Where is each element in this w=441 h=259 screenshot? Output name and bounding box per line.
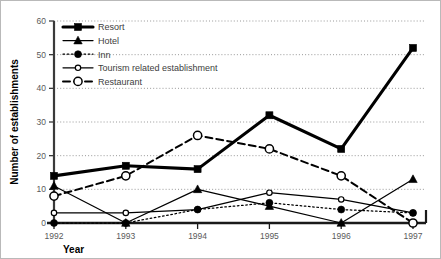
legend-label: Hotel	[98, 36, 119, 46]
legend-label: Resort	[98, 22, 125, 32]
y-tick-label: 50	[37, 50, 47, 60]
data-point-marker	[194, 206, 201, 213]
data-point-marker	[409, 219, 417, 227]
data-point-marker	[337, 172, 345, 180]
data-point-marker	[409, 175, 417, 183]
legend-item-tourism-related-establishment[interactable]: Tourism related establishment	[63, 63, 218, 73]
legend-label: Restaurant	[98, 77, 143, 87]
chart-legend: ResortHotelInnTourism related establishm…	[63, 22, 218, 86]
series-tourism-related-establishment	[51, 190, 415, 216]
x-axis-title: Year	[63, 244, 84, 255]
y-tick-label: 30	[37, 117, 47, 127]
line-chart-canvas: 0102030405060199219931994199519961997 Nu…	[1, 1, 441, 259]
data-point-marker	[51, 220, 58, 227]
data-point-marker	[51, 210, 56, 215]
data-point-marker	[75, 51, 82, 58]
data-point-marker	[338, 206, 345, 213]
y-tick-label: 60	[37, 16, 47, 26]
data-point-marker	[123, 210, 128, 215]
x-tick-label: 1995	[260, 231, 279, 241]
chart-figure: 0102030405060199219931994199519961997 Nu…	[0, 0, 441, 259]
data-point-marker	[410, 209, 417, 216]
data-point-marker	[50, 182, 58, 190]
data-point-marker	[338, 145, 345, 152]
data-point-marker	[339, 197, 344, 202]
data-point-marker	[266, 112, 273, 119]
data-point-marker	[122, 162, 129, 169]
data-point-marker	[50, 192, 58, 200]
x-tick-label: 1992	[45, 231, 64, 241]
data-point-marker	[74, 77, 82, 85]
data-point-marker	[75, 65, 80, 70]
x-tick-label: 1997	[404, 231, 423, 241]
y-tick-label: 40	[37, 83, 47, 93]
x-tick-label: 1996	[332, 231, 351, 241]
data-point-marker	[410, 44, 417, 51]
data-point-marker	[265, 145, 273, 153]
data-point-marker	[122, 220, 129, 227]
x-tick-label: 1994	[188, 231, 207, 241]
y-axis-title: Number of establishments	[9, 59, 20, 185]
data-point-marker	[193, 185, 201, 193]
legend-item-hotel[interactable]: Hotel	[63, 36, 119, 46]
legend-item-resort[interactable]: Resort	[63, 22, 125, 32]
data-point-marker	[194, 166, 201, 173]
data-point-marker	[266, 199, 273, 206]
y-tick-label: 10	[37, 184, 47, 194]
x-tick-label: 1993	[116, 231, 135, 241]
data-point-marker	[194, 131, 202, 139]
data-point-marker	[75, 24, 82, 31]
legend-label: Tourism related establishment	[98, 63, 218, 73]
y-tick-label: 20	[37, 151, 47, 161]
legend-label: Inn	[98, 50, 111, 60]
data-point-marker	[267, 190, 272, 195]
gridlines	[54, 21, 426, 189]
data-point-marker	[122, 172, 130, 180]
data-point-marker	[51, 172, 58, 179]
legend-item-restaurant[interactable]: Restaurant	[63, 77, 143, 87]
y-tick-label: 0	[41, 218, 46, 228]
